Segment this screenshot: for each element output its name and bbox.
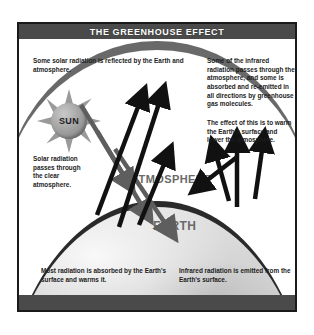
infrared-emitted-arrow xyxy=(215,143,263,207)
annotation-infrared-absorbed: Some of the infrared radiation passes th… xyxy=(207,57,295,109)
annotation-warming-effect: The effect of this is to warm the Earth'… xyxy=(207,119,295,145)
footer-bar xyxy=(19,295,295,310)
annotation-reflected: Some solar radiation is reflected by the… xyxy=(33,57,193,74)
greenhouse-effect-poster: THE GREENHOUSE EFFECT ATMOSPHERE EARTH xyxy=(17,22,297,312)
title-banner: THE GREENHOUSE EFFECT xyxy=(19,24,295,39)
annotation-infrared-emitted: Infrared radiation is emitted from the E… xyxy=(179,267,295,284)
diagram-scene: ATMOSPHERE EARTH SUN xyxy=(19,39,295,299)
annotation-solar-passes: Solar radiation passes through the clear… xyxy=(33,155,87,190)
annotation-absorbed-surface: Most radiation is absorbed by the Earth'… xyxy=(41,267,173,284)
page-title: THE GREENHOUSE EFFECT xyxy=(90,27,225,37)
